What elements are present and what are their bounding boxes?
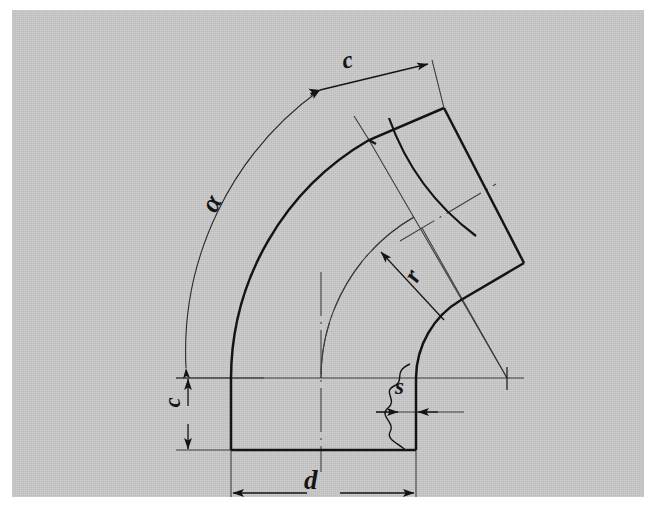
radius-dimension-group <box>381 252 444 320</box>
outer-thin-arc <box>238 140 369 370</box>
inner-wall-profile <box>416 263 524 450</box>
extension-line-top-outer <box>354 116 369 140</box>
elbow-outline <box>231 108 524 450</box>
top-c-dimension-line <box>320 64 428 90</box>
label-d: d <box>304 467 318 494</box>
top-c-dimension-group <box>320 60 444 108</box>
bend-axis-centre-arc <box>321 217 414 378</box>
screenshot-page: α c c r d s <box>0 0 656 515</box>
scanned-sheet: α c c r d s <box>12 10 644 497</box>
top-c-extension-right <box>432 60 444 108</box>
alpha-angle-arc <box>186 90 320 368</box>
radial-line-angled-face <box>422 228 507 378</box>
bore-profile-lines <box>389 118 476 236</box>
label-c-left: c <box>161 397 184 407</box>
alpha-angle-arc-group <box>186 90 320 368</box>
bore-inner-arc <box>389 118 476 236</box>
elbow-technical-drawing <box>12 10 644 497</box>
inner-bore-thin-arc <box>321 217 414 378</box>
angled-end-face <box>444 108 524 263</box>
radius-leader-line <box>381 252 444 320</box>
label-s: s <box>395 375 404 398</box>
construction-lines <box>176 116 524 497</box>
